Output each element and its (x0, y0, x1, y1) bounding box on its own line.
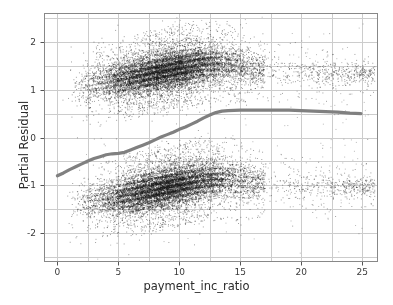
y-axis-label: Partial Residual (17, 75, 31, 215)
scatter-plot-canvas (0, 0, 393, 305)
partial-residual-plot-figure: payment_inc_ratio Partial Residual 05101… (0, 0, 393, 305)
y-tick-label: 0 (18, 133, 36, 143)
y-tick-label: 2 (18, 37, 36, 47)
y-tick-label: -2 (18, 228, 36, 238)
x-tick-label: 0 (55, 267, 61, 277)
x-tick-label: 5 (115, 267, 121, 277)
x-tick-label: 25 (356, 267, 367, 277)
x-tick-label: 15 (235, 267, 246, 277)
y-tick-label: -1 (18, 180, 36, 190)
x-axis-label: payment_inc_ratio (0, 279, 393, 293)
x-tick-label: 20 (295, 267, 306, 277)
y-tick-label: 1 (18, 85, 36, 95)
x-tick-label: 10 (174, 267, 185, 277)
